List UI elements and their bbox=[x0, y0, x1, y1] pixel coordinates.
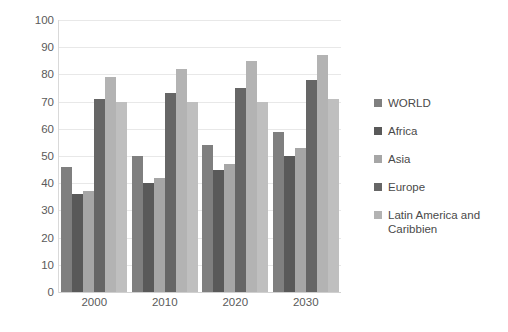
bar bbox=[165, 93, 176, 292]
legend-item-latin-america-and[interactable]: Latin America and Caribbien bbox=[374, 208, 504, 236]
legend-item-africa[interactable]: Africa bbox=[374, 124, 504, 138]
bar bbox=[224, 164, 235, 292]
bar-group-2000 bbox=[61, 20, 127, 292]
bar bbox=[246, 61, 257, 292]
legend-swatch-icon bbox=[374, 155, 382, 163]
bar bbox=[116, 102, 127, 292]
bar bbox=[132, 156, 143, 292]
bar bbox=[143, 183, 154, 292]
y-tick-label: 40 bbox=[41, 177, 54, 189]
bar bbox=[202, 145, 213, 292]
bar bbox=[154, 178, 165, 292]
legend-swatch-icon bbox=[374, 99, 382, 107]
y-tick-label: 60 bbox=[41, 123, 54, 135]
bar bbox=[317, 55, 328, 292]
legend: WORLDAfricaAsiaEuropeLatin America and C… bbox=[374, 96, 504, 250]
y-tick-label: 100 bbox=[35, 14, 54, 26]
bar bbox=[295, 148, 306, 292]
legend-label: Africa bbox=[388, 124, 417, 138]
bar bbox=[235, 88, 246, 292]
x-tick-label: 2020 bbox=[207, 296, 263, 308]
legend-swatch-icon bbox=[374, 183, 382, 191]
bar bbox=[187, 102, 198, 292]
bar bbox=[306, 80, 317, 292]
bar bbox=[176, 69, 187, 292]
legend-label: Latin America and Caribbien bbox=[388, 208, 480, 236]
y-axis-labels: 0102030405060708090100 bbox=[0, 20, 54, 292]
bar bbox=[105, 77, 116, 292]
legend-item-asia[interactable]: Asia bbox=[374, 152, 504, 166]
bar bbox=[83, 191, 94, 292]
gridline bbox=[59, 292, 341, 293]
bar bbox=[61, 167, 72, 292]
x-axis-labels: 2000201020202030 bbox=[59, 296, 341, 308]
y-tick-label: 80 bbox=[41, 68, 54, 80]
bar-groups bbox=[59, 20, 341, 292]
plot-area bbox=[59, 20, 341, 292]
bar bbox=[257, 102, 268, 292]
y-tick-label: 20 bbox=[41, 232, 54, 244]
x-tick-label: 2010 bbox=[137, 296, 193, 308]
bar bbox=[72, 194, 83, 292]
bar-group-2010 bbox=[132, 20, 198, 292]
legend-label: WORLD bbox=[388, 96, 431, 110]
x-tick-label: 2030 bbox=[278, 296, 334, 308]
legend-label: Europe bbox=[388, 180, 425, 194]
bar bbox=[94, 99, 105, 292]
y-tick-label: 50 bbox=[41, 150, 54, 162]
x-tick-label: 2000 bbox=[66, 296, 122, 308]
y-tick-label: 10 bbox=[41, 259, 54, 271]
bar bbox=[213, 170, 224, 292]
bar-chart: 0102030405060708090100 2000201020202030 … bbox=[0, 0, 508, 332]
legend-swatch-icon bbox=[374, 211, 382, 219]
bar bbox=[328, 99, 339, 292]
bar bbox=[273, 132, 284, 292]
legend-swatch-icon bbox=[374, 127, 382, 135]
y-tick-label: 70 bbox=[41, 96, 54, 108]
y-tick-label: 30 bbox=[41, 204, 54, 216]
bar-group-2030 bbox=[273, 20, 339, 292]
y-tick-label: 0 bbox=[48, 286, 54, 298]
bar bbox=[284, 156, 295, 292]
legend-label: Asia bbox=[388, 152, 410, 166]
legend-item-europe[interactable]: Europe bbox=[374, 180, 504, 194]
legend-item-world[interactable]: WORLD bbox=[374, 96, 504, 110]
y-tick-label: 90 bbox=[41, 41, 54, 53]
bar-group-2020 bbox=[202, 20, 268, 292]
